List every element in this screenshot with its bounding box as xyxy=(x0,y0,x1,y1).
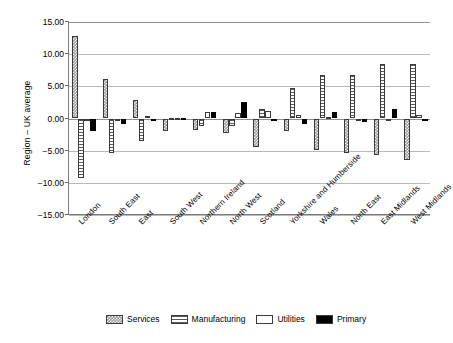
legend-swatch-manufacturing xyxy=(171,315,188,324)
legend-label-services: Services xyxy=(127,314,160,324)
x-axis-label: Scotland xyxy=(258,197,287,226)
legend-item-manufacturing: Manufacturing xyxy=(171,314,246,324)
legend-item-primary: Primary xyxy=(316,314,366,324)
legend-swatch-utilities xyxy=(256,315,273,324)
legend-label-utilities: Utilities xyxy=(277,314,304,324)
legend-item-services: Services xyxy=(106,314,160,324)
legend-swatch-primary xyxy=(316,315,333,324)
x-axis-label: Wales xyxy=(318,204,340,226)
x-axis-label: South East xyxy=(107,192,142,227)
x-axis-label: London xyxy=(77,201,103,227)
chart-legend: ServicesManufacturingUtilitiesPrimary xyxy=(106,314,366,324)
legend-swatch-services xyxy=(106,315,123,324)
x-axis-label: North East xyxy=(349,193,383,227)
legend-label-manufacturing: Manufacturing xyxy=(192,314,246,324)
legend-item-utilities: Utilities xyxy=(256,314,304,324)
legend-label-primary: Primary xyxy=(337,314,366,324)
x-axis-label: East xyxy=(137,208,155,226)
